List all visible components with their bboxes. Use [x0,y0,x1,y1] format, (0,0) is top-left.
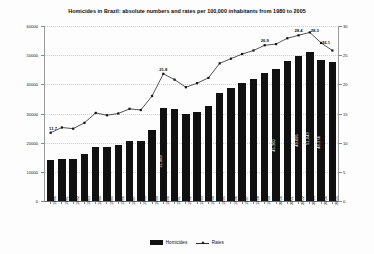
y-tick-label-left: 40000 [4,82,38,87]
bar-homicides [250,79,257,201]
y-tick-mark-right [339,55,342,56]
x-tick-label-year: 1983 [86,195,91,204]
legend-label: Rates [212,240,224,245]
x-tick-label-year: 2005 [334,195,339,204]
y-tick-mark-left [41,55,44,56]
rate-marker [286,37,288,39]
rate-marker [162,73,164,75]
y-tick-mark-left [41,172,44,173]
bar-homicides [238,83,245,201]
x-tick-label-year: 1985 [109,195,114,204]
chart-title: Homicides in Brazil: absolute numbers an… [0,8,374,14]
x-tick-label-year: 1980 [52,195,57,204]
x-tick-mark [185,202,186,204]
x-tick-label-year: 1989 [154,195,159,204]
x-tick-mark [152,202,153,204]
x-tick-mark [61,202,62,204]
x-tick-label-year: 1981 [64,195,69,204]
x-tick-mark [106,202,107,204]
y-tick-label-right: 25 [343,53,369,58]
bar-homicides [272,69,279,201]
x-tick-mark [309,202,310,204]
x-tick-label-year: 2001 [289,195,294,204]
bar-homicides [58,159,65,201]
x-tick-label-year: 1996 [233,195,238,204]
rate-value-label: 28.4 [294,28,302,33]
x-tick-mark [50,202,51,204]
rate-marker [128,108,130,110]
bar-homicides [69,159,76,201]
bar-value-label: 48.374 [316,136,321,149]
x-tick-mark [298,202,299,204]
x-tick-label-year: 1992 [187,195,192,204]
rate-marker [72,128,74,130]
bar-homicides [284,61,291,201]
bar-homicides [295,56,302,201]
bar-homicides [205,106,212,201]
y-tick-mark-left [41,201,44,202]
y-tick-mark-right [339,172,342,173]
bar-homicides [137,141,144,201]
rate-marker [207,77,209,79]
bar-homicides [81,154,88,201]
x-tick-label-year: 1987 [131,195,136,204]
chart-legend: HomicidesRates [0,240,374,245]
rate-marker [151,95,153,97]
y-tick-label-right: 5 [343,169,369,174]
bar-homicides [103,147,110,201]
x-tick-mark [118,202,119,204]
rate-value-label: 28.3 [311,28,319,33]
y-tick-label-left: 0 [4,199,38,204]
x-tick-label-year: 1999 [266,195,271,204]
x-tick-mark [129,202,130,204]
bar-homicides [148,130,155,201]
rate-marker [264,44,266,46]
x-tick-label-year: 2003 [311,195,316,204]
rate-marker [140,109,142,111]
rate-marker [331,49,333,51]
y-tick-mark-left [41,26,44,27]
rate-marker [83,122,85,124]
bar-homicides [182,114,189,202]
bar-value-label: 45.360 [271,139,276,152]
bar-value-label: 31.989 [158,155,163,168]
x-tick-mark [253,202,254,204]
y-tick-mark-right [339,143,342,144]
rate-marker [297,34,299,36]
y-tick-mark-right [339,84,342,85]
bar-homicides [115,145,122,201]
x-tick-label-year: 1998 [255,195,260,204]
y-tick-mark-right [339,26,342,27]
rate-marker [50,132,52,134]
bar-homicides [171,109,178,201]
x-tick-label-year: 2000 [278,195,283,204]
x-tick-label-year: 1982 [75,195,80,204]
x-tick-label-year: 1988 [142,195,147,204]
rate-marker [252,49,254,51]
bar-homicides [329,62,336,201]
bar-homicides [317,60,324,201]
x-tick-label-year: 1986 [120,195,125,204]
rate-marker [230,58,232,60]
x-tick-mark [140,202,141,204]
plot-area: 31.98945.36049.69551.04348.374 11.721.82… [44,26,339,202]
bar-homicides [92,147,99,201]
legend-item[interactable]: Homicides [150,240,187,245]
y-tick-mark-left [41,114,44,115]
rate-value-label: 11.7 [49,126,57,131]
bar-homicides [216,93,223,201]
x-tick-mark [332,202,333,204]
bar-homicides [193,112,200,201]
x-tick-label-year: 1991 [176,195,181,204]
legend-label: Homicides [166,240,187,245]
legend-item[interactable]: Rates [196,240,224,245]
x-tick-label-year: 1984 [97,195,102,204]
y-tick-label-left: 20000 [4,140,38,145]
legend-line-marker-icon [196,240,209,244]
y-tick-label-left: 30000 [4,111,38,116]
legend-bar-swatch-icon [150,240,163,244]
rate-marker [185,86,187,88]
bar-homicides [227,88,234,201]
x-tick-mark [219,202,220,204]
bar-homicides [261,73,268,201]
